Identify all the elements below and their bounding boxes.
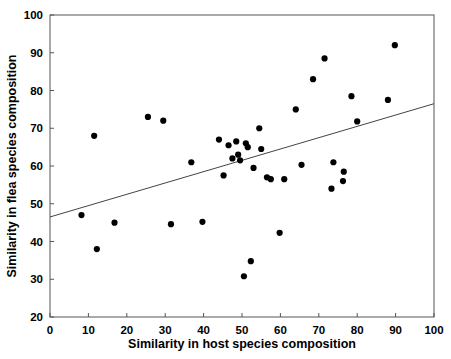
plot-frame <box>50 15 434 317</box>
x-tick-label: 0 <box>47 324 53 336</box>
data-point <box>241 273 247 279</box>
data-point <box>233 138 239 144</box>
data-point <box>293 106 299 112</box>
data-point <box>160 118 166 124</box>
x-tick-label: 30 <box>159 324 172 336</box>
data-point <box>229 155 235 161</box>
data-point <box>268 176 274 182</box>
y-tick-label: 90 <box>30 47 43 59</box>
data-point <box>237 157 243 163</box>
y-tick-label: 40 <box>30 236 43 248</box>
data-point <box>216 136 222 142</box>
data-point <box>245 144 251 150</box>
y-tick-label: 20 <box>30 311 43 323</box>
y-tick-label: 60 <box>30 160 43 172</box>
y-axis-ticks <box>50 15 54 317</box>
x-tick-label: 10 <box>82 324 95 336</box>
plot-canvas: 0102030405060708090100 20304050607080901… <box>0 0 451 359</box>
data-point <box>235 152 241 158</box>
y-axis-title: Similarity in flea species composition <box>5 55 19 278</box>
x-tick-label: 90 <box>389 324 402 336</box>
data-point <box>256 125 262 131</box>
data-point <box>225 142 231 148</box>
y-tick-label: 30 <box>30 273 43 285</box>
data-points <box>78 42 398 279</box>
x-tick-label: 60 <box>274 324 287 336</box>
data-point <box>321 55 327 61</box>
y-tick-label: 100 <box>24 9 43 21</box>
data-point <box>354 118 360 124</box>
x-axis-ticks <box>50 313 434 317</box>
data-point <box>310 76 316 82</box>
scatter-plot-figure: 0102030405060708090100 20304050607080901… <box>0 0 451 359</box>
data-point <box>168 221 174 227</box>
x-tick-label: 50 <box>236 324 249 336</box>
data-point <box>281 176 287 182</box>
data-point <box>111 220 117 226</box>
y-tick-label: 80 <box>30 85 43 97</box>
x-tick-label: 20 <box>120 324 133 336</box>
data-point <box>258 146 264 152</box>
y-axis-tick-labels: 2030405060708090100 <box>24 9 43 323</box>
data-point <box>220 172 226 178</box>
data-point <box>94 246 100 252</box>
x-tick-label: 100 <box>424 324 443 336</box>
data-point <box>348 93 354 99</box>
plot-border <box>50 15 434 317</box>
data-point <box>145 114 151 120</box>
data-point <box>91 133 97 139</box>
data-point <box>277 230 283 236</box>
y-tick-label: 70 <box>30 122 43 134</box>
data-point <box>199 219 205 225</box>
x-axis-title: Similarity in host species composition <box>128 337 356 351</box>
y-tick-label: 50 <box>30 198 43 210</box>
data-point <box>341 169 347 175</box>
data-point <box>248 258 254 264</box>
x-tick-label: 40 <box>197 324 210 336</box>
x-axis-tick-labels: 0102030405060708090100 <box>47 324 444 336</box>
data-point <box>78 212 84 218</box>
data-point <box>328 186 334 192</box>
data-point <box>188 159 194 165</box>
data-point <box>385 97 391 103</box>
x-tick-label: 70 <box>312 324 325 336</box>
data-point <box>250 165 256 171</box>
data-point <box>392 42 398 48</box>
data-point <box>298 162 304 168</box>
data-point <box>340 178 346 184</box>
x-tick-label: 80 <box>351 324 364 336</box>
data-point <box>330 159 336 165</box>
